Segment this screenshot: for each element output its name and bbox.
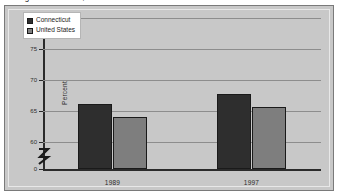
- plot-area: Percent 6065707580019891997: [43, 14, 321, 171]
- axis-break-zigzag-icon: [36, 146, 52, 166]
- y-tick-label-0: 0: [34, 166, 37, 172]
- legend-item-united-states: United States: [27, 26, 75, 35]
- x-axis-label-1989: 1989: [105, 179, 120, 186]
- legend-swatch-icon-0: [27, 18, 33, 24]
- bar-united-states-1997: [252, 107, 286, 169]
- legend-item-connecticut: Connecticut: [27, 16, 75, 25]
- y-axis-title: Percent: [61, 81, 68, 105]
- chart-title: Figure — Percent, Connecticut and United…: [18, 0, 198, 2]
- y-tick-mark-75: [39, 49, 43, 50]
- bar-connecticut-1997: [217, 94, 251, 169]
- y-tick-label-70: 70: [30, 77, 37, 83]
- bar-united-states-1989: [113, 117, 147, 169]
- y-tick-label-60: 60: [30, 139, 37, 145]
- chart-screenshot: Figure — Percent, Connecticut and United…: [0, 0, 338, 196]
- y-tick-mark-60: [39, 142, 43, 143]
- x-axis-baseline: [43, 169, 321, 171]
- gridline-80: [43, 18, 321, 19]
- bar-connecticut-1989: [78, 104, 112, 169]
- chart-legend: ConnecticutUnited States: [23, 12, 81, 39]
- y-tick-mark-70: [39, 80, 43, 81]
- y-tick-label-75: 75: [30, 46, 37, 52]
- legend-label-1: United States: [36, 27, 75, 34]
- y-tick-mark-65: [39, 111, 43, 112]
- legend-label-0: Connecticut: [36, 17, 70, 24]
- y-tick-mark-0: [39, 169, 43, 170]
- gridline-75: [43, 49, 321, 50]
- chart-frame: Percent 6065707580019891997 ConnecticutU…: [4, 5, 334, 191]
- legend-swatch-icon-1: [27, 28, 33, 34]
- x-axis-label-1997: 1997: [244, 179, 259, 186]
- gridline-70: [43, 80, 321, 81]
- y-tick-label-65: 65: [30, 108, 37, 114]
